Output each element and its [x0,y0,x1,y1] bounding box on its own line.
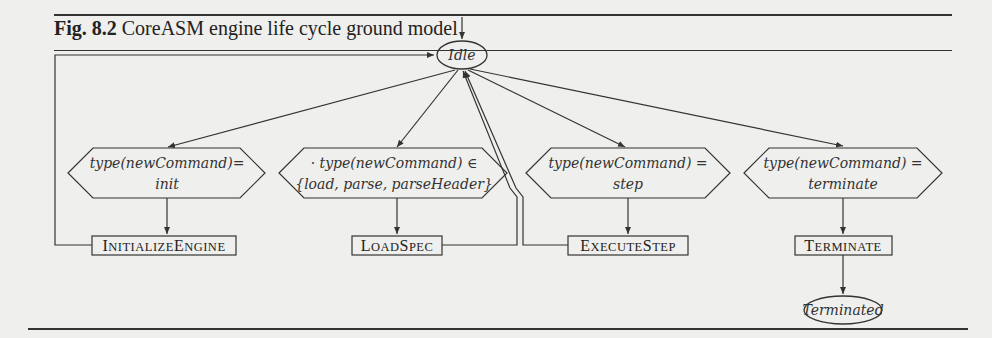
rule-load-spec: LOADSPEC [352,236,442,255]
svg-text:EXECUTESTEP: EXECUTESTEP [580,237,676,254]
edge-idle-guard4 [470,69,843,146]
edge-idle-guard1 [168,70,455,147]
svg-text:TERMINATE: TERMINATE [804,237,881,254]
svg-text:type(newCommand)=: type(newCommand)= [90,155,245,171]
svg-text:type(newCommand) =: type(newCommand) = [548,155,707,171]
guard-load-parse: · type(newCommand) ∈ {load, parse, parse… [279,148,507,198]
svg-text:Terminated: Terminated [802,302,883,318]
rule-initialize-engine: INITIALIZEENGINE [92,236,236,255]
svg-text:Idle: Idle [447,47,475,63]
guard-step: type(newCommand) = step [526,148,730,198]
loop-initialize-idle [55,55,434,245]
lifecycle-diagram: Idle type(newCommand)= init · type(newCo… [0,0,992,338]
svg-text:init: init [155,176,179,192]
svg-text:{load, parse, parseHeader}: {load, parse, parseHeader} [295,176,493,192]
guard-terminate: type(newCommand) = terminate [744,148,942,198]
svg-text:type(newCommand) =: type(newCommand) = [763,155,922,171]
node-idle: Idle [437,41,487,69]
rule-execute-step: EXECUTESTEP [568,236,688,255]
svg-text:· type(newCommand) ∈: · type(newCommand) ∈ [311,155,478,171]
rule-terminate: TERMINATE [795,236,892,255]
edge-idle-guard2 [397,70,458,147]
svg-text:step: step [613,176,643,192]
svg-text:INITIALIZEENGINE: INITIALIZEENGINE [102,237,225,254]
edge-idle-guard3 [468,70,625,147]
svg-text:LOADSPEC: LOADSPEC [361,237,434,254]
node-terminated: Terminated [802,296,883,324]
svg-text:terminate: terminate [808,176,878,192]
guard-init: type(newCommand)= init [68,148,265,198]
